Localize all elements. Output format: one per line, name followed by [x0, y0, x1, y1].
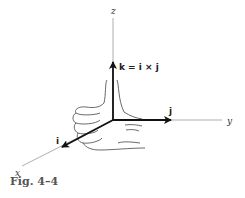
y-axis-label: y: [226, 116, 233, 126]
j-vector-label: j: [168, 106, 172, 116]
z-axis-label: z: [110, 6, 116, 16]
unit-vectors: [62, 62, 171, 147]
hand-illustration: [73, 80, 145, 150]
i-vector-label: i: [56, 136, 59, 146]
k-vector-label: k = i × j: [119, 62, 159, 72]
axes: [22, 18, 222, 166]
right-hand-rule-diagram: z y x k = i × j j i: [0, 0, 245, 198]
figure-caption: Fig. 4–4: [10, 175, 58, 188]
